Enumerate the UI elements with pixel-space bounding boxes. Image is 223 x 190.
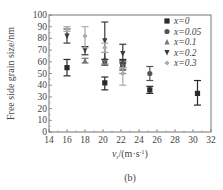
y-tick-label: 80 (38, 33, 48, 43)
legend-label: x=0 (173, 16, 190, 26)
legend-label: x=0.1 (173, 37, 197, 47)
y-axis-label: Free side grain size/nm (5, 27, 16, 120)
x-tick-label: 24 (134, 135, 144, 145)
y-tick-label: 60 (38, 57, 48, 67)
x-tick-label: 20 (98, 135, 108, 145)
chart-subtitle: (b) (124, 172, 136, 184)
legend-marker (164, 29, 169, 34)
x-tick-label: 14 (44, 135, 54, 145)
y-tick-label: 100 (33, 10, 48, 20)
data-point (120, 71, 125, 76)
data-point (82, 33, 87, 38)
data-point (64, 33, 69, 39)
data-point (102, 80, 107, 85)
y-tick-label: 40 (38, 80, 48, 90)
data-point (64, 65, 69, 70)
y-tick-label: 20 (38, 104, 48, 114)
x-tick-label: 28 (170, 135, 180, 145)
data-point (120, 51, 125, 57)
y-tick-label: 70 (38, 45, 48, 55)
x-tick-label: 26 (152, 135, 162, 145)
data-point (195, 91, 200, 96)
legend-marker (164, 18, 169, 23)
y-tick-label: 90 (38, 22, 48, 32)
x-tick-label: 32 (206, 135, 216, 145)
x-tick-label: 18 (80, 135, 90, 145)
legend-label: x=0.05 (173, 27, 202, 37)
x-tick-label: 16 (62, 135, 72, 145)
data-point (102, 45, 107, 50)
y-tick-label: 30 (38, 92, 48, 102)
legend-marker (164, 50, 169, 56)
legend-marker (164, 39, 169, 45)
x-axis-label: vr/(m·s-1) (112, 148, 148, 160)
y-tick-label: 50 (38, 69, 48, 79)
y-tick-label: 10 (38, 115, 48, 125)
x-tick-label: 30 (188, 135, 198, 145)
legend-label: x=0.3 (173, 58, 197, 68)
data-point (147, 71, 152, 76)
x-tick-label: 22 (116, 135, 126, 145)
data-point (147, 87, 152, 92)
legend-label: x=0.2 (173, 48, 197, 58)
legend-marker (164, 60, 169, 65)
grain-size-chart: 0102030405060708090100141618202224262830… (0, 0, 223, 190)
